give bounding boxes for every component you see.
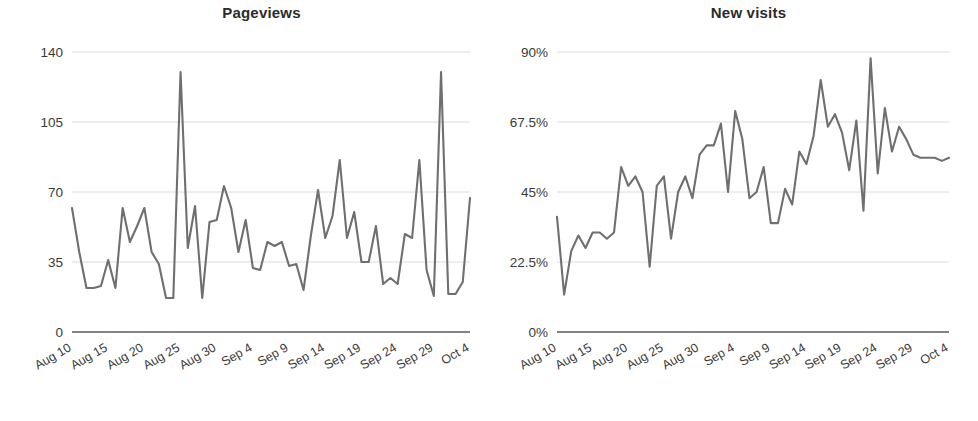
- y-axis-tick-label: 35: [48, 255, 63, 270]
- chart-panel-new-visits: New visits 0%22.5%45%67.5%90%Aug 10Aug 1…: [489, 0, 978, 421]
- x-axis-tick-label: Sep 24: [358, 340, 399, 372]
- y-axis-tick-label: 67.5%: [510, 115, 548, 130]
- y-axis-tick-label: 22.5%: [510, 255, 548, 270]
- x-axis-tick-label: Sep 4: [219, 340, 254, 368]
- x-axis-tick-label: Oct 4: [918, 340, 951, 367]
- y-axis-tick-label: 0%: [528, 325, 548, 340]
- x-axis-tick-label: Sep 24: [838, 340, 879, 372]
- pageviews-line-chart: 03570105140Aug 10Aug 15Aug 20Aug 25Aug 3…: [0, 0, 489, 421]
- x-axis-tick-label: Sep 29: [874, 340, 915, 372]
- x-axis-tick-label: Sep 14: [767, 340, 808, 372]
- x-axis-tick-label: Aug 15: [553, 340, 594, 372]
- x-axis-tick-label: Sep 9: [737, 340, 772, 368]
- x-axis-tick-label: Aug 30: [660, 340, 701, 372]
- chart-panel-pageviews: Pageviews 03570105140Aug 10Aug 15Aug 20A…: [0, 0, 489, 421]
- x-axis-tick-label: Sep 14: [285, 340, 326, 372]
- data-line-pageviews: [72, 72, 470, 298]
- y-axis-tick-label: 45%: [521, 185, 548, 200]
- x-axis-tick-label: Sep 4: [701, 340, 736, 368]
- x-axis-tick-label: Sep 19: [322, 340, 363, 372]
- x-axis-tick-label: Aug 30: [177, 340, 218, 372]
- x-axis-tick-label: Aug 20: [105, 340, 146, 372]
- x-axis-tick-label: Oct 4: [439, 340, 472, 367]
- x-axis-tick-label: Aug 10: [517, 340, 558, 372]
- y-axis-tick-label: 105: [40, 115, 63, 130]
- y-axis-tick-label: 70: [48, 185, 63, 200]
- x-axis-tick-label: Aug 10: [32, 340, 73, 372]
- charts-container: Pageviews 03570105140Aug 10Aug 15Aug 20A…: [0, 0, 978, 421]
- y-axis-tick-label: 0: [55, 325, 63, 340]
- new-visits-line-chart: 0%22.5%45%67.5%90%Aug 10Aug 15Aug 20Aug …: [489, 0, 978, 421]
- x-axis-tick-label: Aug 25: [624, 340, 665, 372]
- x-axis-tick-label: Sep 19: [802, 340, 843, 372]
- y-axis-tick-label: 140: [40, 45, 63, 60]
- data-line-new-visits: [557, 58, 949, 294]
- x-axis-tick-label: Sep 9: [255, 340, 290, 368]
- y-axis-tick-label: 90%: [521, 45, 548, 60]
- x-axis-tick-label: Aug 15: [68, 340, 109, 372]
- x-axis-tick-label: Aug 20: [588, 340, 629, 372]
- x-axis-tick-label: Sep 29: [394, 340, 435, 372]
- x-axis-tick-label: Aug 25: [141, 340, 182, 372]
